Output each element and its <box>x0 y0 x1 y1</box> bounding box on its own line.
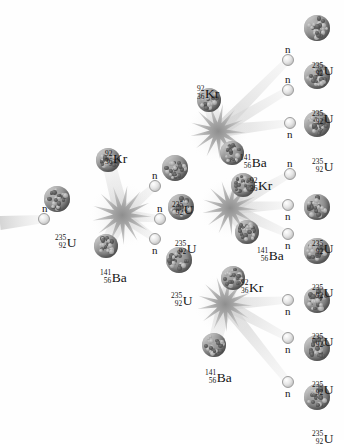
nucleus-label-u-r5: 23592U <box>312 277 334 302</box>
element-symbol: U <box>184 203 194 217</box>
isotope-label-u235: 23592U <box>312 158 334 176</box>
element-symbol: Ba <box>269 249 284 263</box>
nucleus-label-u-r2: 23592U <box>312 103 334 128</box>
neutron-label-n-g4a: n <box>285 306 291 317</box>
nucleus-label-kr-gen2a: 9236Kr <box>197 78 219 103</box>
nucleon <box>108 243 113 248</box>
isotope-label-kr92: 9236Kr <box>197 85 219 103</box>
atomic-number: 36 <box>105 158 112 166</box>
element-symbol: Ba <box>217 371 232 385</box>
atomic-number: 36 <box>197 93 204 101</box>
nucleon <box>209 346 213 350</box>
nucleon <box>107 239 111 243</box>
atomic-number: 92 <box>175 300 182 308</box>
nucleus-label-ba-gen2a: 14156Ba <box>240 147 267 172</box>
isotope-label-u235: 23592U <box>312 430 334 448</box>
neutron-label-n-g4b: n <box>285 344 291 355</box>
isotope-label-u235: 23592U <box>171 292 193 310</box>
nucleon <box>213 349 216 352</box>
nucleus-label-ba-gen2b: 14156Ba <box>257 240 284 265</box>
nucleus-label-ba-gen1: 14156Ba <box>100 262 127 287</box>
nucleon <box>322 398 327 403</box>
element-symbol: U <box>324 286 334 300</box>
isotope-label-u235: 23592U <box>312 284 334 302</box>
nucleon <box>209 339 213 343</box>
atomic-number: 36 <box>241 287 248 295</box>
neutron-n-g2a <box>282 54 294 66</box>
nucleus-label-u-r4: 23592U <box>312 233 334 258</box>
element-symbol: Ba <box>112 271 127 285</box>
atomic-number: 92 <box>316 248 323 256</box>
atomic-number: 92 <box>59 242 66 250</box>
element-symbol: U <box>324 242 334 256</box>
neutron-n-g3a <box>284 168 296 180</box>
element-symbol: Kr <box>205 87 219 101</box>
nucleon <box>244 237 248 241</box>
atomic-number: 92 <box>316 166 323 174</box>
neutron-label-n-g2c: n <box>287 129 293 140</box>
neutron-label-n-g1c: n <box>152 245 158 256</box>
nucleus-label-u-t1: 23592U <box>172 194 194 219</box>
nucleus-uranium-u-r4 <box>304 194 330 220</box>
element-symbol: U <box>324 432 334 446</box>
nucleon <box>238 229 242 233</box>
neutron-label-n-g1a: n <box>152 170 158 181</box>
nucleon <box>100 160 103 163</box>
nucleon <box>47 197 52 202</box>
nucleon <box>314 351 318 355</box>
nucleus-label-kr-gen2b: 9236Kr <box>250 170 272 195</box>
nucleon <box>220 340 224 344</box>
nucleon <box>317 132 321 136</box>
nucleon <box>164 166 168 170</box>
element-symbol: Kr <box>258 179 272 193</box>
element-symbol: U <box>67 236 77 250</box>
nucleon <box>170 161 175 166</box>
neutron-label-n-g1b: n <box>157 203 163 214</box>
atomic-number: 56 <box>209 377 216 385</box>
nucleon <box>200 103 203 106</box>
nucleon <box>319 81 324 86</box>
isotope-label-u235: 23592U <box>312 62 334 80</box>
isotope-label-kr92: 9236Kr <box>241 279 263 297</box>
atomic-number: 92 <box>316 118 323 126</box>
nucleon <box>173 173 177 177</box>
isotope-label-kr92: 9236Kr <box>105 150 127 168</box>
neutron-label-n-in: n <box>42 203 48 214</box>
element-symbol: U <box>187 242 197 256</box>
element-symbol: U <box>324 64 334 78</box>
element-symbol: U <box>324 112 334 126</box>
element-symbol: U <box>324 160 334 174</box>
nucleon <box>235 188 238 191</box>
nucleus-label-u-t2: 23592U <box>175 233 197 258</box>
nucleus-label-kr-gen1: 9236Kr <box>105 143 127 168</box>
neutron-label-n-g4c: n <box>285 388 291 399</box>
element-symbol: Ba <box>252 156 267 170</box>
isotope-label-u235: 23592U <box>175 240 197 258</box>
isotope-label-ba141: 14156Ba <box>257 247 284 265</box>
atomic-number: 92 <box>316 292 323 300</box>
element-symbol: Kr <box>113 152 127 166</box>
isotope-label-ba141: 14156Ba <box>100 269 127 287</box>
nucleus-barium-ba-gen1 <box>94 234 118 258</box>
nucleon <box>57 194 61 198</box>
nucleon <box>57 201 62 206</box>
neutron-n-g1a <box>149 180 161 192</box>
nucleus-label-u-r7: 23592U <box>312 374 334 399</box>
nucleon <box>319 354 323 358</box>
nucleon <box>233 268 237 272</box>
atomic-number: 56 <box>261 255 268 263</box>
atomic-number: 36 <box>250 185 257 193</box>
nucleus-barium-ba-gen2c <box>202 333 226 357</box>
element-symbol: U <box>324 383 334 397</box>
isotope-label-u235: 23592U <box>312 240 334 258</box>
nucleon <box>311 400 315 404</box>
nucleon <box>313 307 317 311</box>
nucleon <box>307 400 311 404</box>
nucleon <box>226 159 229 162</box>
isotope-label-u235: 23592U <box>55 234 77 252</box>
atomic-number: 92 <box>176 209 183 217</box>
nucleon <box>223 277 227 281</box>
nucleus-label-kr-gen2c: 9236Kr <box>241 272 263 297</box>
neutron-label-n-g2b: n <box>285 74 291 85</box>
